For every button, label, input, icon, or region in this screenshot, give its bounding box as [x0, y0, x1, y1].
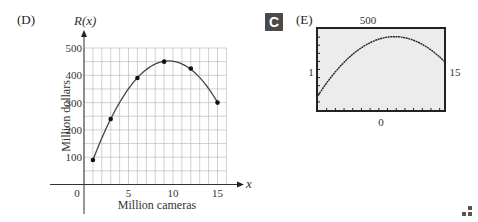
data-point — [189, 66, 194, 71]
section-badge: C — [265, 13, 283, 31]
data-point — [108, 117, 113, 122]
x-tick-label: 0 — [74, 187, 80, 199]
data-point — [91, 158, 96, 163]
y-axis-function-label: R(x) — [73, 13, 96, 28]
x-axis-label: Million cameras — [118, 198, 197, 212]
chart-d: 051015100200300400500 R(x) x Million cam… — [0, 0, 260, 222]
y-tick-label: 400 — [66, 69, 83, 81]
y-axis-label: Million dollars — [59, 80, 73, 152]
data-point — [215, 100, 220, 105]
x-axis-letter: x — [245, 176, 252, 191]
data-point — [162, 59, 167, 64]
window-xmin-label: 1 — [308, 66, 314, 78]
window-ymax-label: 500 — [360, 14, 377, 26]
chart-e: 500 1 15 0 — [300, 0, 478, 135]
x-tick-label: 15 — [212, 187, 224, 199]
y-tick-label: 100 — [66, 151, 83, 163]
calculator-screen — [317, 28, 445, 111]
x-axis-arrow-icon — [237, 182, 244, 188]
window-ymin-label: 0 — [378, 116, 384, 128]
data-point — [135, 76, 140, 81]
resize-grip-icon — [460, 206, 472, 218]
y-axis-arrow-icon — [81, 30, 87, 37]
y-tick-label: 500 — [66, 42, 83, 54]
grid — [84, 48, 226, 185]
window-xmax-label: 15 — [450, 66, 462, 78]
